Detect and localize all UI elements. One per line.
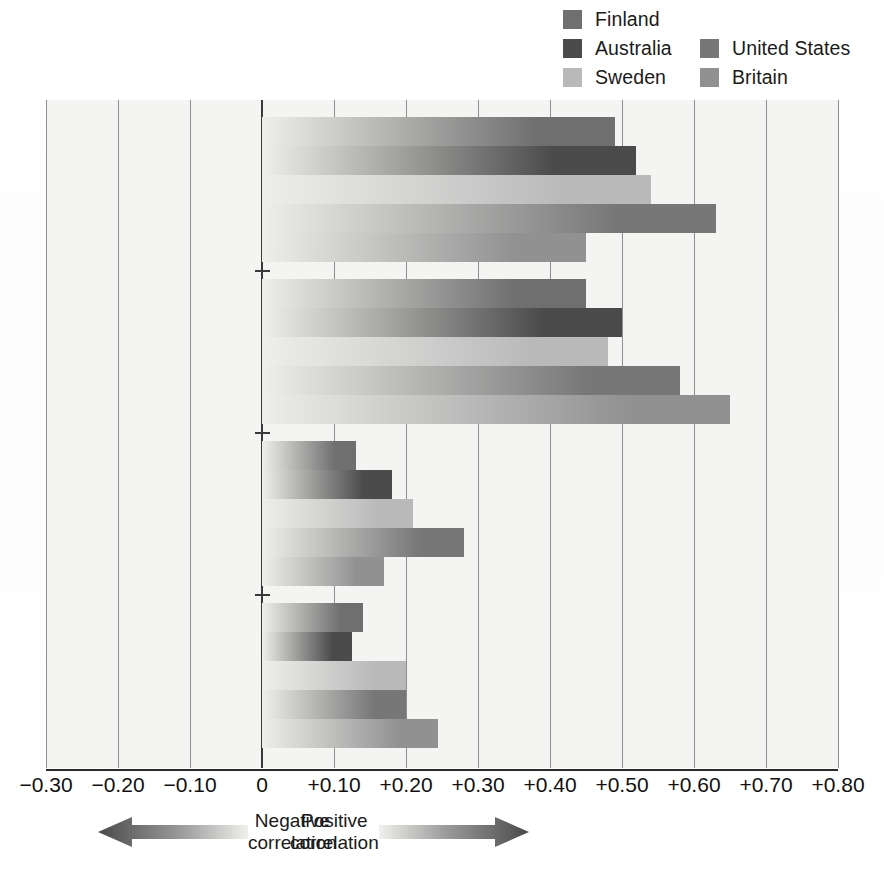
legend-item-united-states: United States: [700, 37, 850, 59]
legend-swatch-united-states: [700, 39, 719, 58]
gridline: [46, 100, 47, 768]
bar: [262, 603, 363, 632]
legend-item-finland: Finland: [563, 8, 660, 30]
x-tick-label: +0.30: [451, 773, 504, 797]
legend-swatch-australia: [563, 39, 582, 58]
bar: [262, 204, 716, 233]
x-tick-label: +0.60: [667, 773, 720, 797]
bar: [262, 661, 406, 690]
legend-swatch-sweden: [563, 68, 582, 87]
bar: [262, 557, 384, 586]
bar: [262, 470, 392, 499]
legend-item-australia: Australia: [563, 37, 672, 59]
bar: [262, 337, 608, 366]
bar: [262, 690, 406, 719]
correlation-direction-legend: Negative correlation Positive correlatio…: [0, 806, 884, 872]
legend-label-united-states: United States: [732, 37, 850, 60]
bar: [262, 308, 622, 337]
x-tick-label: 0: [256, 773, 268, 797]
gridline: [190, 100, 191, 768]
bar: [262, 279, 586, 308]
gridline: [118, 100, 119, 768]
bar: [262, 528, 464, 557]
group-separator-tick: [255, 270, 270, 272]
gridline: [766, 100, 767, 768]
gridline: [694, 100, 695, 768]
bar: [262, 719, 438, 748]
legend-swatch-britain: [700, 68, 719, 87]
bar: [262, 441, 356, 470]
chart-plot-area: [46, 100, 838, 768]
chart-legend: Finland Australia Sweden United States B…: [563, 6, 883, 86]
positive-correlation-label: Positive correlation: [290, 810, 379, 854]
legend-swatch-finland: [563, 10, 582, 29]
legend-label-britain: Britain: [732, 66, 788, 89]
positive-correlation-indicator: Positive correlation: [290, 810, 529, 854]
legend-item-britain: Britain: [700, 66, 788, 88]
x-tick-label: −0.30: [19, 773, 72, 797]
group-separator-tick: [255, 432, 270, 434]
x-tick-label: +0.80: [811, 773, 864, 797]
bar: [262, 117, 615, 146]
legend-label-sweden: Sweden: [595, 66, 666, 89]
x-tick-label: +0.40: [523, 773, 576, 797]
bar: [262, 175, 651, 204]
bar: [262, 395, 730, 424]
x-tick-label: +0.10: [307, 773, 360, 797]
legend-item-sweden: Sweden: [563, 66, 666, 88]
right-arrow-gradient-icon: [379, 815, 529, 849]
gridline: [838, 100, 839, 768]
x-tick-label: +0.20: [379, 773, 432, 797]
x-tick-label: +0.70: [739, 773, 792, 797]
left-arrow-gradient-icon: [98, 815, 248, 849]
x-tick-label: +0.50: [595, 773, 648, 797]
x-tick-label: −0.10: [163, 773, 216, 797]
legend-label-australia: Australia: [595, 37, 672, 60]
legend-label-finland: Finland: [595, 8, 660, 31]
bar: [262, 233, 586, 262]
group-separator-tick: [255, 594, 270, 596]
x-axis-tick-labels: −0.30−0.20−0.100+0.10+0.20+0.30+0.40+0.5…: [0, 771, 884, 801]
bar: [262, 366, 680, 395]
x-tick-label: −0.20: [91, 773, 144, 797]
bar: [262, 499, 413, 528]
bar: [262, 632, 352, 661]
bar: [262, 146, 636, 175]
